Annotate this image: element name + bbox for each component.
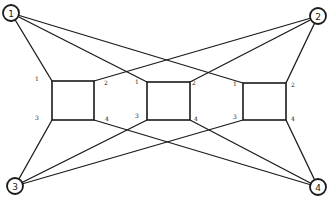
port-label: 4 (105, 115, 109, 122)
node-label: 2 (315, 12, 321, 22)
block-square (52, 81, 94, 120)
block-square (147, 82, 190, 120)
port-label: 1 (35, 75, 39, 82)
terminal-node-3: 3 (7, 178, 23, 194)
edges-group (11, 13, 318, 187)
block-square (243, 83, 286, 120)
edge-4-to-middle-BR (190, 120, 318, 187)
terminal-node-1: 1 (3, 5, 19, 21)
port-label: 4 (194, 115, 198, 122)
port-label: 1 (233, 80, 237, 87)
network-diagram: 123412341234 1234 (0, 0, 335, 202)
port-label: 2 (291, 81, 295, 88)
edge-2-to-middle-TR (190, 16, 318, 82)
terminal-node-4: 4 (310, 179, 326, 195)
blocks-group: 123412341234 (35, 75, 295, 122)
node-label: 4 (315, 183, 321, 193)
edge-2-to-right-TR (286, 16, 318, 83)
port-label: 1 (135, 78, 139, 85)
port-label: 3 (135, 112, 139, 119)
port-label: 2 (192, 79, 196, 86)
block-middle: 1234 (135, 78, 198, 122)
port-label: 4 (291, 115, 295, 122)
block-right: 1234 (233, 80, 295, 122)
node-label: 3 (12, 182, 18, 192)
node-label: 1 (8, 9, 14, 19)
port-label: 3 (233, 113, 237, 120)
port-label: 3 (35, 114, 39, 121)
terminal-node-2: 2 (310, 8, 326, 24)
block-left: 1234 (35, 75, 109, 122)
edge-4-to-right-BR (286, 120, 318, 187)
port-label: 2 (104, 79, 108, 86)
